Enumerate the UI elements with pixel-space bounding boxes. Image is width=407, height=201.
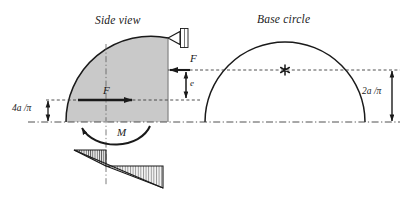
lower-force-label: F — [103, 85, 110, 96]
radius-distance-label: 2a /π — [362, 87, 381, 97]
eccentricity-label: e — [190, 79, 194, 88]
pin-support-icon — [168, 29, 188, 48]
moment-arc — [82, 126, 150, 145]
moment-label: M — [117, 127, 126, 138]
base-circle-title: Base circle — [257, 14, 310, 26]
upper-force-label: F — [190, 53, 197, 64]
side-view-body — [66, 36, 168, 122]
bending-moment-diagram — [74, 150, 163, 188]
engineering-figure: Side view Base circle F e F 4a /π M 2a /… — [0, 0, 407, 201]
base-circle-arc — [205, 42, 365, 122]
centroid-distance-label: 4a /π — [12, 104, 31, 114]
side-view-title: Side view — [95, 15, 141, 27]
figure-canvas — [0, 0, 407, 201]
